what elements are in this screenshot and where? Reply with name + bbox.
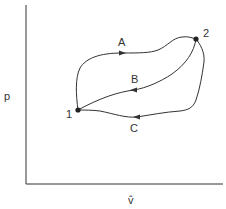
arrow-left-icon <box>133 115 140 120</box>
state-point-2 <box>193 36 198 41</box>
state-label-1: 1 <box>66 109 72 120</box>
x-axis-label: v̂ <box>128 195 134 206</box>
y-axis-label: p <box>4 91 10 102</box>
state-point-1 <box>75 107 80 112</box>
path-label-c: C <box>130 123 138 134</box>
arrow-right-icon <box>119 51 126 56</box>
pv-diagram: p v̂ 1 2 A B C <box>0 0 226 209</box>
path-label-b: B <box>131 74 138 85</box>
path-label-a: A <box>118 37 125 48</box>
state-label-2: 2 <box>203 28 209 39</box>
path-c <box>78 39 204 117</box>
diagram-graphic <box>0 0 226 209</box>
arrow-left-icon <box>130 88 137 93</box>
